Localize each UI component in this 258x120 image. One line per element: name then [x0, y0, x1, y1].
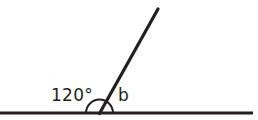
diagram-svg	[0, 0, 258, 120]
unknown-angle-label: b	[118, 87, 129, 104]
angle-measure-label: 120°	[51, 87, 93, 104]
geometry-diagram: 120° b	[0, 0, 258, 120]
